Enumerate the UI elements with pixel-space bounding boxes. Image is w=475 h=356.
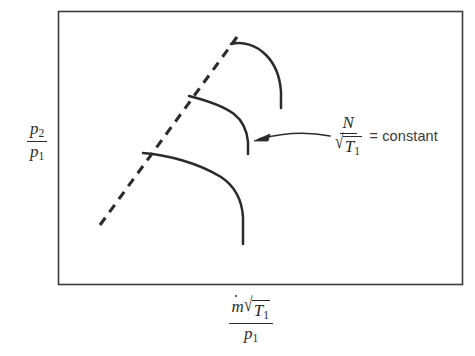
annotation-radicand: T1	[343, 136, 361, 158]
radicand: T1	[252, 300, 270, 322]
annotation-sqrt-group: √T1	[335, 135, 362, 159]
radical-sign-icon: √	[335, 131, 344, 152]
annotation-fraction: N √T1	[332, 114, 365, 158]
radical-sign-icon: √	[244, 295, 253, 316]
y-axis-fraction: p2 p1	[27, 120, 47, 163]
y-axis-denominator: p1	[27, 142, 47, 163]
speed-parameter-annotation: N √T1 = constant	[332, 114, 438, 158]
mass-flow-symbol: m	[232, 298, 244, 316]
y-axis-numerator: p2	[27, 120, 47, 142]
y-axis-label: p2 p1	[14, 120, 60, 163]
x-axis-label: m√T1 p1	[192, 298, 310, 345]
compressor-characteristic-figure: p2 p1 m√T1 p1 N √T1 = constant	[0, 0, 475, 356]
x-axis-numerator: m√T1	[229, 298, 274, 324]
x-axis-denominator: p1	[241, 324, 261, 345]
annotation-equals-text: = constant	[370, 128, 438, 144]
sqrt-group: √T1	[244, 298, 271, 322]
x-axis-fraction: m√T1 p1	[229, 298, 274, 345]
annotation-denominator: √T1	[332, 134, 365, 159]
